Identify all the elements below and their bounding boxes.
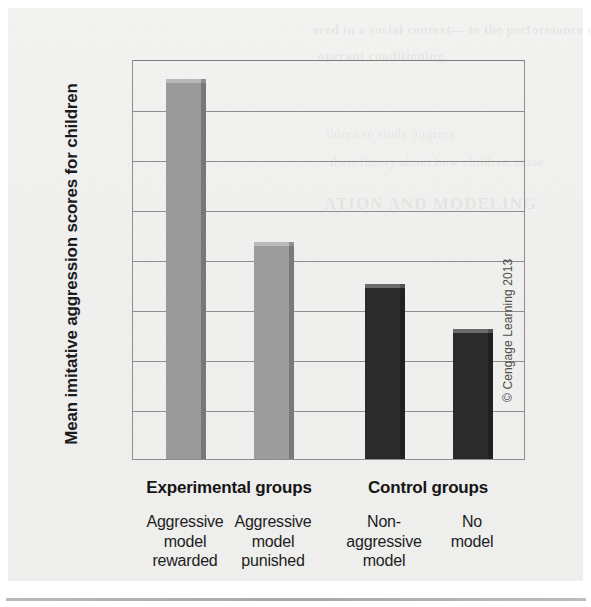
bar-body: [365, 284, 405, 459]
bar-body: [453, 329, 493, 459]
bar-body: [166, 79, 206, 459]
y-axis-title: Mean imitative aggression scores for chi…: [62, 54, 82, 474]
x-axis-category-label-line: No: [412, 512, 532, 532]
x-axis-category-label-line: model: [324, 551, 444, 571]
x-axis-category-label-line: model: [412, 532, 532, 552]
x-axis-category-label-line: model: [213, 532, 333, 552]
bar-body: [254, 242, 294, 460]
x-axis-category-label-line: Aggressive: [213, 512, 333, 532]
x-axis-category-label-line: punished: [213, 551, 333, 571]
x-axis-category-label: Aggressivemodelpunished: [213, 512, 333, 571]
figure-page: ered in a social context— to the perform…: [0, 0, 591, 607]
page-bottom-rule: [6, 598, 586, 601]
plot-area: 0246810121416: [132, 60, 525, 460]
bar-bevel-top: [365, 284, 405, 288]
bar: [365, 284, 405, 459]
bar: [254, 242, 294, 460]
x-axis-group-label: Control groups: [328, 478, 528, 498]
bar-bevel-top: [453, 329, 493, 333]
x-axis-category-label: Nomodel: [412, 512, 532, 551]
bar: [453, 329, 493, 459]
x-axis-group-label: Experimental groups: [129, 478, 329, 498]
copyright-credit: © Cengage Learning 2013: [501, 222, 515, 402]
bar-bevel-right: [488, 329, 493, 459]
bar: [166, 79, 206, 459]
bar-bevel-right: [201, 79, 206, 459]
bar-bevel-right: [289, 242, 294, 460]
bar-bevel-right: [400, 284, 405, 459]
bar-bevel-top: [166, 79, 206, 83]
bar-chart-figure: Mean imitative aggression scores for chi…: [8, 8, 583, 581]
bar-bevel-top: [254, 242, 294, 246]
scanned-paper-background: ered in a social context— to the perform…: [8, 8, 583, 581]
